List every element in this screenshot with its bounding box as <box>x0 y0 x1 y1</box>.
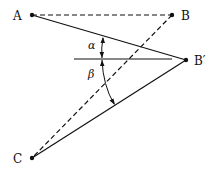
point-c <box>30 156 34 160</box>
solid-line-a-bprime <box>32 15 186 60</box>
label-b: B <box>181 9 190 23</box>
beta-arrowhead-bottom <box>110 99 116 106</box>
point-b <box>170 13 174 17</box>
point-a <box>30 13 34 17</box>
beta-angle-arc <box>102 60 114 104</box>
solid-line-bprime-c <box>32 60 186 158</box>
point-bprime <box>184 58 188 62</box>
geometry-diagram: A B B′ C α β <box>0 0 218 173</box>
alpha-arrowhead-top <box>101 37 106 43</box>
label-alpha: α <box>88 39 96 52</box>
beta-arrowhead-top <box>100 60 105 66</box>
label-bprime: B′ <box>194 54 206 68</box>
label-a: A <box>12 9 22 23</box>
label-beta: β <box>87 68 94 81</box>
label-c: C <box>13 152 22 166</box>
dashed-line-b-c <box>32 15 172 158</box>
alpha-arrowhead-bottom <box>100 52 105 58</box>
